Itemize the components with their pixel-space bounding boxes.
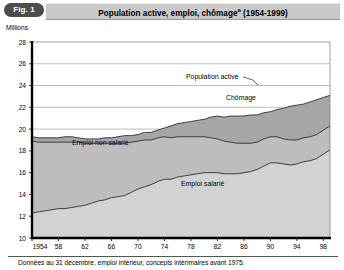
y-tick-label: 28 [4,39,26,46]
annotation-emploi-salarie: Emploi salarié [181,180,224,187]
annotation-population-active: Population active [186,73,238,80]
x-tick-label: 78 [183,243,199,251]
y-tick-label: 20 [4,126,26,133]
y-tick-label: 26 [4,60,26,67]
x-tick-label: 94 [289,243,305,251]
y-tick-label: 14 [4,191,26,198]
y-tick-label: 16 [4,169,26,176]
y-tick-label: 24 [4,82,26,89]
x-tick-label: 90 [262,243,278,251]
footnote-divider [8,256,338,257]
chart-plot-area: 10121416182022242628 1954586266707478828… [0,0,344,270]
y-tick-label: 10 [4,235,26,242]
annotation-chomage: Chômage [226,94,256,101]
x-tick-label: 66 [103,243,119,251]
x-tick-label: 58 [50,243,66,251]
x-tick-label: 74 [156,243,172,251]
x-tick-label: 62 [77,243,93,251]
annotation-emploi-non-salarie: Emploi non salarié [72,139,129,146]
x-tick-label: 86 [236,243,252,251]
x-tick-label: 82 [209,243,225,251]
y-tick-label: 22 [4,104,26,111]
x-tick-label: 98 [315,243,331,251]
x-tick-label: 70 [130,243,146,251]
y-tick-label: 12 [4,213,26,220]
stacked-area-chart [0,0,344,270]
footnote-text: Données au 31 décembre, emploi intérieur… [18,259,338,266]
x-tick-label: 1954 [28,243,52,251]
y-tick-label: 18 [4,147,26,154]
